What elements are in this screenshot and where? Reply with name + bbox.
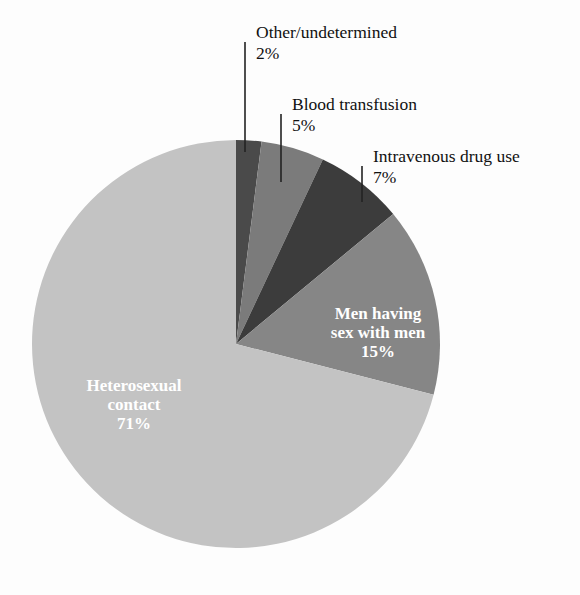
pie-chart: Men having sex with men 15% Heterosexual… (0, 0, 580, 595)
callout-intravenous-drug-use: Intravenous drug use 7% (373, 146, 520, 188)
msm-label-line2: sex with men (331, 323, 426, 342)
callout-blood-transfusion: Blood transfusion 5% (292, 94, 417, 136)
callout-blood-label: Blood transfusion (292, 94, 417, 114)
callout-ivdu-percent: 7% (373, 167, 520, 188)
hetero-label-percent: 71% (117, 414, 151, 433)
hetero-label-line2: contact (108, 395, 161, 414)
pie-chart-svg: Men having sex with men 15% Heterosexual… (0, 0, 580, 595)
callout-other-undetermined: Other/undetermined 2% (256, 22, 397, 64)
callout-blood-percent: 5% (292, 115, 417, 136)
callout-ivdu-label: Intravenous drug use (373, 146, 520, 166)
callout-other-label: Other/undetermined (256, 22, 397, 42)
msm-label-line1: Men having (335, 304, 422, 323)
msm-label-percent: 15% (361, 342, 395, 361)
callout-other-percent: 2% (256, 43, 397, 64)
hetero-label-line1: Heterosexual (86, 376, 181, 395)
